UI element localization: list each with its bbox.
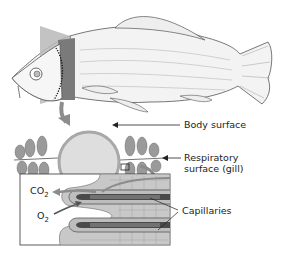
- o2-subscript: 2: [44, 216, 48, 224]
- label-respiratory-line2: surface (gill): [184, 163, 244, 174]
- gill-filament-right: [120, 136, 166, 178]
- label-body-surface: Body surface: [184, 119, 246, 130]
- label-respiratory-line1: Respiratory: [184, 152, 238, 163]
- co2-subscript: 2: [44, 191, 48, 199]
- co2-text: CO: [30, 185, 44, 196]
- label-capillaries: Capillaries: [182, 205, 232, 216]
- fish-illustration: [12, 17, 272, 112]
- label-o2: O2: [37, 210, 49, 226]
- gill-filament-left: [14, 136, 58, 178]
- label-co2: CO2: [30, 185, 49, 201]
